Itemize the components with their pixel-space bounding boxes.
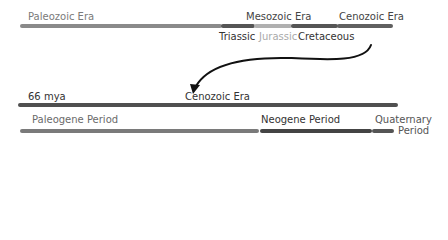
- neogene-label: Neogene Period: [261, 114, 340, 126]
- start-mya-label: 66 mya: [28, 91, 66, 103]
- paleogene-bar: [20, 129, 259, 133]
- paleogene-label: Paleogene Period: [32, 114, 118, 126]
- quaternary-period-label: Period: [398, 125, 429, 137]
- quaternary-bar: [372, 129, 394, 133]
- cenozoic-zoom-label: Cenozoic Era: [185, 91, 250, 103]
- neogene-bar: [260, 129, 372, 133]
- cenozoic-zoom-bar: [18, 103, 398, 107]
